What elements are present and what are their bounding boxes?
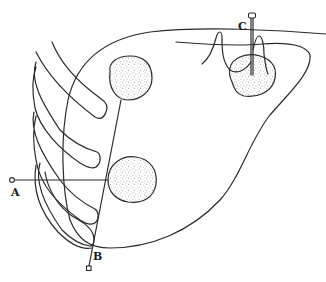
ribs — [33, 42, 107, 248]
needle-a: A — [10, 178, 108, 199]
label-a: A — [10, 186, 20, 199]
upper-left-lesion — [110, 56, 152, 100]
label-b: B — [93, 250, 102, 263]
lower-left-lesion — [108, 157, 156, 203]
needle-b-handle — [87, 266, 92, 271]
needle-a-handle — [10, 178, 15, 183]
liver-outline — [63, 29, 326, 248]
needle-c-handle — [249, 13, 256, 18]
liver-biopsy-diagram: A B C — [0, 0, 326, 282]
rib-3 — [33, 112, 98, 224]
label-c: C — [238, 20, 247, 33]
